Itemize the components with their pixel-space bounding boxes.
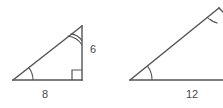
right-triangle: 12 bbox=[130, 8, 223, 100]
left-triangle-base-label: 8 bbox=[42, 88, 48, 100]
right-triangle-hypotenuse bbox=[130, 8, 219, 80]
right-triangle-vertical-leg bbox=[219, 8, 223, 12]
left-triangle-apex-angle-arc-outer-icon bbox=[68, 36, 82, 45]
geometry-figure: 8 6 12 bbox=[0, 0, 223, 108]
right-triangle-base-angle-arc-icon bbox=[148, 66, 153, 80]
left-triangle-base-angle-arc-icon bbox=[29, 67, 33, 80]
right-triangle-apex-angle-arc-outer-icon bbox=[207, 17, 217, 23]
left-triangle-vertical-label: 6 bbox=[90, 43, 96, 55]
right-triangle-base-label: 12 bbox=[186, 88, 198, 100]
left-triangle: 8 6 bbox=[13, 26, 96, 100]
left-triangle-right-angle-marker-icon bbox=[72, 70, 82, 80]
figure-canvas: 8 6 12 bbox=[0, 0, 223, 108]
